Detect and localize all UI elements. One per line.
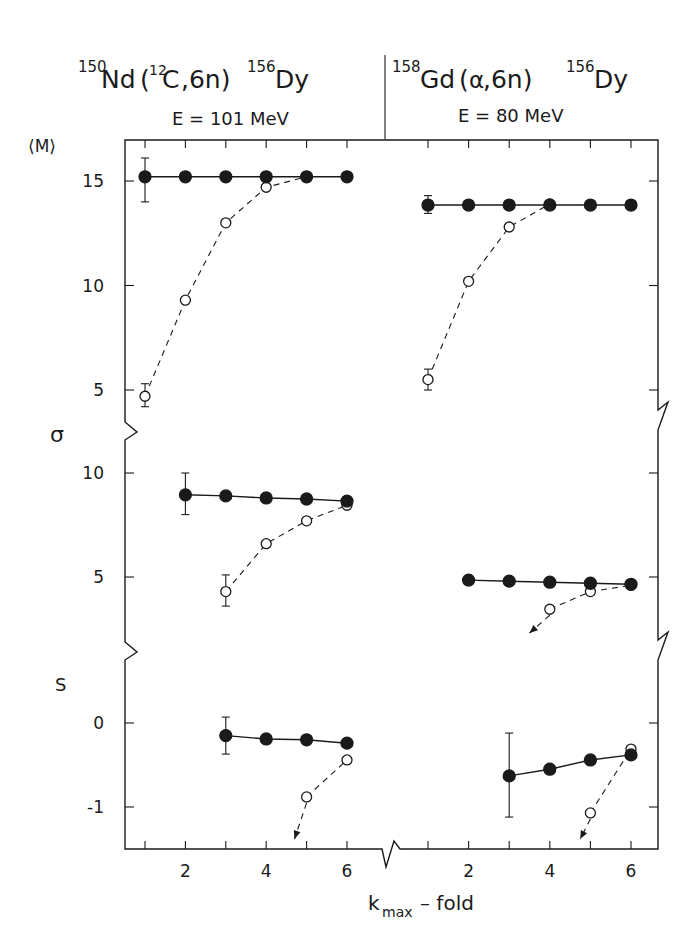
svg-text:2: 2	[463, 861, 474, 881]
right-reaction-header: 158 Gd ( α ,6n) 156 Dy E = 80 MeV	[392, 58, 628, 126]
multiplicity-figure: 150 Nd ( 12 C ,6n) 156 Dy E = 101 MeV 15…	[0, 0, 699, 943]
svg-text:– fold: – fold	[420, 891, 474, 915]
svg-text:Gd: Gd	[420, 65, 455, 94]
svg-text:k: k	[368, 891, 380, 915]
svg-text:max: max	[382, 904, 413, 920]
svg-text:-1: -1	[87, 797, 104, 817]
axis-ticks	[125, 140, 658, 849]
x-axis-title: k max – fold	[368, 891, 474, 920]
svg-text:6: 6	[342, 861, 353, 881]
svg-text:(: (	[459, 65, 469, 94]
svg-text:4: 4	[544, 861, 555, 881]
svg-text:Dy: Dy	[275, 65, 309, 94]
svg-text:10: 10	[82, 276, 104, 296]
svg-text:10: 10	[82, 463, 104, 483]
svg-text:158: 158	[392, 58, 421, 76]
svg-text:,6n): ,6n)	[181, 65, 230, 94]
svg-text:Nd: Nd	[101, 65, 136, 94]
svg-text:C: C	[162, 65, 179, 94]
svg-text:156: 156	[247, 58, 276, 76]
svg-text:4: 4	[261, 861, 272, 881]
svg-text:6: 6	[626, 861, 637, 881]
svg-text:,6n): ,6n)	[483, 65, 532, 94]
left-energy: E = 101 MeV	[172, 108, 290, 129]
svg-text:156: 156	[566, 58, 595, 76]
sigma-axis-label: σ	[50, 422, 64, 447]
svg-text:5: 5	[93, 567, 104, 587]
svg-text:0: 0	[93, 713, 104, 733]
svg-text:Dy: Dy	[594, 65, 628, 94]
svg-text:2: 2	[180, 861, 191, 881]
right-energy: E = 80 MeV	[458, 105, 564, 126]
data-series	[139, 158, 637, 839]
svg-text:15: 15	[82, 171, 104, 191]
left-reaction-header: 150 Nd ( 12 C ,6n) 156 Dy E = 101 MeV	[78, 58, 309, 129]
s-axis-label: S	[55, 674, 66, 695]
svg-text:5: 5	[93, 380, 104, 400]
m-axis-label: ⟨M⟩	[28, 136, 56, 156]
svg-text:α: α	[469, 67, 484, 93]
